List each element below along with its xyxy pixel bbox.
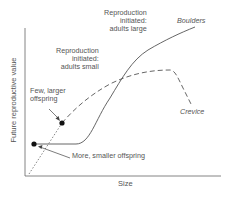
repro-large-label: Reproduction initiated: adults large — [104, 9, 147, 33]
more-smaller-label: More, smaller offspring — [72, 152, 145, 160]
more-smaller-arrow — [40, 147, 70, 158]
few-larger-offspring-point — [59, 120, 64, 125]
more-smaller-arrowhead — [38, 145, 43, 149]
offspring-tradeoff-dotted-line — [29, 123, 62, 174]
x-axis-label: Size — [118, 180, 133, 188]
boulders-label: Boulders — [177, 17, 205, 25]
few-larger-line2: offspring — [30, 95, 66, 103]
few-larger-label: Few, larger offspring — [30, 87, 66, 103]
repro-small-label: Reproduction initiated: adults small — [56, 47, 99, 71]
crevice-curve — [62, 70, 191, 123]
more-smaller-offspring-point — [31, 141, 36, 146]
crevice-label: Crevice — [180, 108, 204, 116]
repro-small-line3: adults small — [56, 63, 99, 71]
repro-large-line3: adults large — [104, 25, 147, 33]
few-larger-arrowhead — [56, 116, 61, 121]
y-axis-label: Future reproductive value — [9, 57, 18, 142]
